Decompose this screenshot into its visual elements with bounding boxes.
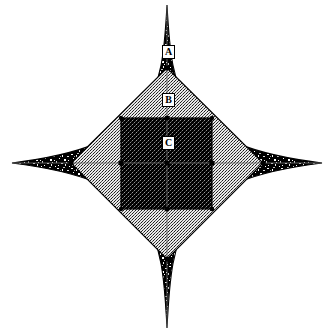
label-a: A [162,45,175,59]
label-c: C [162,136,175,150]
label-b: B [162,93,175,107]
figure-canvas: A B C [0,0,331,333]
